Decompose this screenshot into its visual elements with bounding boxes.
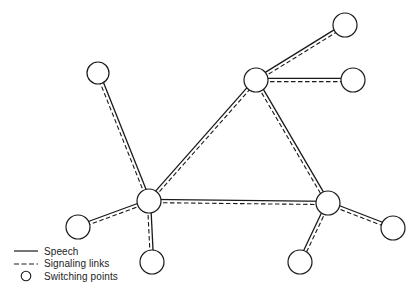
speech-line (149, 199, 328, 201)
signaling-line (150, 81, 257, 202)
switching-point-hub_right (316, 191, 340, 215)
speech-line (99, 72, 150, 200)
switching-point-n_right (341, 68, 365, 92)
switching-point-n_bottom_left (140, 250, 164, 274)
legend-item-switching: Switching points (12, 270, 118, 283)
signaling-line (149, 203, 328, 205)
signaling-line (97, 74, 148, 202)
legend-label: Signaling links (44, 258, 109, 269)
speech-line (257, 79, 329, 202)
dashed-line-icon (12, 258, 40, 270)
switching-point-n_top_left (87, 62, 109, 84)
switching-point-hub_top (244, 68, 268, 92)
switching-point-hub_left (137, 189, 161, 213)
link-hub_top-n_right (256, 78, 353, 81)
switching-point-n_left (66, 215, 90, 239)
speech-line (255, 24, 344, 79)
solid-line-icon (12, 245, 40, 257)
switching-point-n_far_right (381, 216, 405, 240)
links-layer (77, 24, 393, 263)
switching-point-n_bottom_right (288, 250, 312, 274)
legend: Speech Signaling links Switching points (12, 245, 118, 283)
switching-points-layer (66, 13, 405, 274)
link-hub_top-hub_right (255, 79, 330, 204)
legend-item-speech: Speech (12, 245, 118, 258)
switching-point-n_top_right (333, 13, 357, 37)
link-hub_left-hub_right (149, 199, 328, 204)
link-n_top_left-hub_left (97, 72, 151, 201)
legend-item-signaling: Signaling links (12, 258, 118, 271)
legend-label: Speech (44, 246, 79, 257)
link-hub_left-hub_top (148, 79, 257, 202)
legend-label: Switching points (44, 271, 118, 282)
signaling-line (255, 81, 327, 204)
link-hub_top-n_top_right (255, 24, 346, 82)
circle-icon (12, 270, 40, 282)
speech-line (148, 79, 255, 200)
signaling-line (257, 26, 346, 81)
